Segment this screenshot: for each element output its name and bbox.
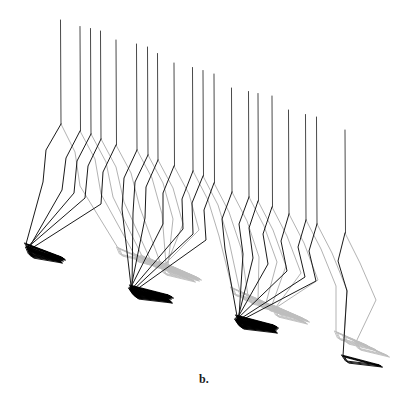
trunk-segment <box>193 68 194 172</box>
figure-panel: b. <box>0 0 408 412</box>
trunk-segment <box>258 94 259 202</box>
trunk-segment <box>232 88 233 192</box>
trunk-segment <box>61 20 62 124</box>
trunk-segment <box>137 44 138 150</box>
trunk-segment <box>80 27 81 132</box>
trunk-segment <box>249 92 250 198</box>
trunk-segment <box>91 29 92 135</box>
trunk-segment <box>345 130 346 233</box>
trunk-segment <box>289 110 290 214</box>
gait-sequence-plot <box>0 0 408 412</box>
panel-caption: b. <box>0 372 408 387</box>
trunk-segment <box>174 63 175 166</box>
trunk-segment <box>272 96 273 207</box>
trunk-segment <box>101 31 102 139</box>
trunk-segment <box>214 74 215 183</box>
trunk-segment <box>116 40 117 145</box>
trunk-segment <box>203 71 204 177</box>
trunk-segment <box>148 47 149 155</box>
trunk-segment <box>317 117 318 224</box>
trunk-segment <box>306 115 307 221</box>
trunk-segment <box>158 54 159 161</box>
